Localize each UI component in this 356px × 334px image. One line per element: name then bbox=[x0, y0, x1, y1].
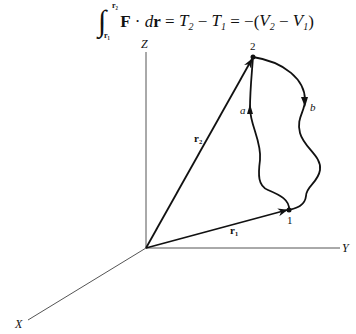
x-axis bbox=[28, 248, 146, 320]
point-1 bbox=[287, 208, 292, 213]
vector-r2 bbox=[146, 59, 252, 248]
r1-label: r₁ bbox=[230, 224, 238, 236]
path-a-arrow-icon bbox=[247, 104, 253, 114]
vector-diagram: Z Y X r₁ r₂ a b 1 2 bbox=[0, 0, 356, 334]
path-a bbox=[250, 57, 289, 210]
vector-r1 bbox=[146, 210, 287, 248]
path-a-label: a bbox=[240, 104, 246, 116]
point-1-label: 1 bbox=[287, 214, 293, 226]
x-axis-label: X bbox=[14, 317, 23, 331]
path-b-arrow-icon bbox=[301, 97, 308, 107]
path-b-label: b bbox=[310, 101, 316, 113]
point-2-label: 2 bbox=[250, 40, 256, 52]
point-2 bbox=[251, 55, 256, 60]
r2-label: r₂ bbox=[194, 132, 203, 144]
y-axis-label: Y bbox=[342, 241, 350, 255]
z-axis-label: Z bbox=[141, 37, 148, 51]
